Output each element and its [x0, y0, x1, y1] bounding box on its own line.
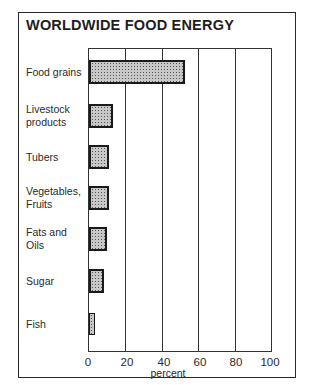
category-label: Vegetables,Fruits: [26, 185, 81, 211]
chart-title: WORLDWIDE FOOD ENERGY: [26, 17, 234, 33]
bar: [89, 269, 104, 293]
category-label: Food grains: [26, 66, 81, 79]
gridline: [235, 49, 236, 351]
bar: [89, 227, 107, 251]
category-label: Tubers: [26, 151, 58, 164]
gridline: [125, 49, 126, 351]
x-axis-label: percent: [150, 367, 185, 379]
bar: [89, 60, 185, 84]
x-tick-label: 0: [85, 356, 91, 368]
gridline: [271, 49, 272, 351]
x-tick-label: 80: [230, 356, 243, 368]
x-tick-label: 20: [121, 356, 134, 368]
bar: [89, 313, 95, 335]
category-label: Livestockproducts: [26, 103, 70, 129]
gridline: [162, 49, 163, 351]
category-label: Fats andOils: [26, 226, 67, 252]
bar: [89, 104, 113, 128]
bar: [89, 186, 109, 210]
bar: [89, 145, 109, 169]
x-tick-label: 60: [194, 356, 207, 368]
plot-area: [88, 48, 272, 352]
category-label: Sugar: [26, 275, 54, 288]
gridline: [198, 49, 199, 351]
category-label: Fish: [26, 318, 46, 331]
x-tick-label: 100: [260, 356, 279, 368]
